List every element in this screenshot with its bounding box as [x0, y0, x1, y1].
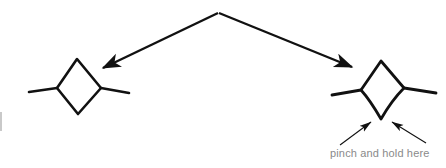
pinch-arrow-right — [392, 122, 426, 143]
diagram-canvas — [0, 0, 446, 168]
left-kite-whisker-right — [101, 88, 129, 93]
left-kite-shape — [29, 59, 129, 114]
top-arrows-group — [103, 13, 352, 68]
right-kite-shape — [332, 61, 436, 119]
pinch-and-hold-caption: pinch and hold here — [330, 146, 440, 160]
left-kite-whisker-left — [29, 88, 57, 92]
figure-root: pinch and hold here — [0, 0, 446, 168]
pinch-arrow-left — [340, 122, 371, 145]
right-kite-outline — [361, 61, 404, 119]
pinch-arrows-group — [340, 122, 426, 145]
right-kite-whisker-left — [332, 90, 361, 95]
left-kite-outline — [57, 59, 101, 114]
right-kite-whisker-right — [404, 88, 436, 93]
arrow-to-right-shape — [219, 13, 352, 67]
arrow-to-left-shape — [103, 13, 218, 68]
